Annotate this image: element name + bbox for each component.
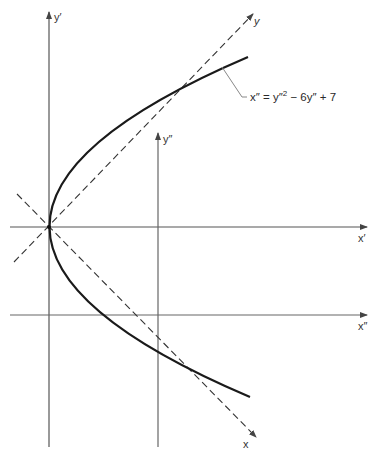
parabola-diagram: y′ x′ y″ x″ y x x″ = y″2 − 6y″ + 7 [0, 0, 378, 462]
eq-mid: = y″ [260, 91, 283, 103]
rotated-x-label: x [243, 438, 249, 450]
x-double-prime-label: x″ [358, 320, 368, 332]
eq-rest: − 6y″ + 7 [287, 91, 336, 103]
y-double-prime-label: y″ [163, 133, 173, 145]
x-prime-label: x′ [358, 232, 366, 244]
rotated-y-label: y [253, 15, 261, 27]
eq-lhs: x″ [250, 91, 260, 103]
y-prime-label: y′ [54, 11, 62, 23]
vertex-point [47, 225, 51, 229]
equation-leader [222, 67, 247, 97]
equation-label: x″ = y″2 − 6y″ + 7 [250, 89, 336, 103]
